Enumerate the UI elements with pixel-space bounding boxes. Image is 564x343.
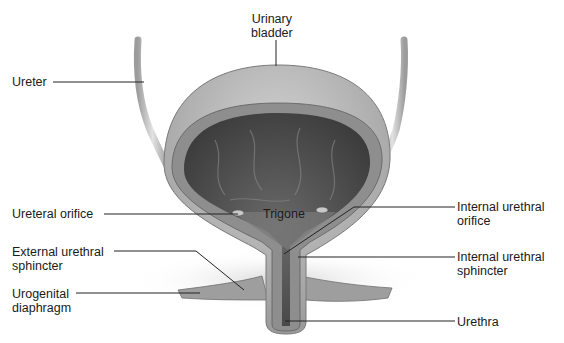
label-internal-urethral-orifice: Internal urethral orifice bbox=[457, 200, 545, 228]
label-ureteral-orifice: Ureteral orifice bbox=[12, 207, 93, 221]
left-ureteral-orifice bbox=[232, 210, 244, 216]
left-ureter bbox=[137, 40, 168, 168]
label-internal-urethral-sphincter: Internal urethral sphincter bbox=[457, 250, 545, 278]
label-urogenital-diaphragm: Urogenital diaphragm bbox=[12, 287, 71, 315]
label-urethra: Urethra bbox=[457, 315, 499, 329]
label-trigone: Trigone bbox=[263, 207, 305, 221]
anatomy-illustration bbox=[0, 0, 564, 343]
bladder-diagram: Urinary bladder Ureter Ureteral orifice … bbox=[0, 0, 564, 343]
label-urinary-bladder: Urinary bladder bbox=[251, 12, 293, 40]
label-external-urethral-sphincter: External urethral sphincter bbox=[12, 245, 104, 273]
label-ureter: Ureter bbox=[12, 75, 47, 89]
right-ureteral-orifice bbox=[316, 207, 328, 213]
